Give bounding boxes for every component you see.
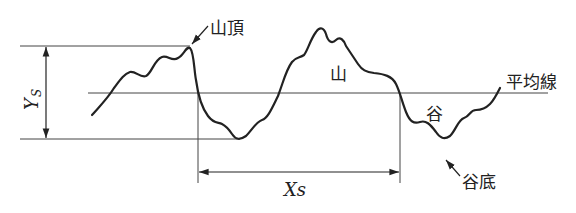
svg-text:Y: Y: [21, 96, 42, 110]
valley-label: 谷: [426, 104, 443, 124]
svg-text:S: S: [30, 89, 44, 97]
profile-diagram: 山頂 山 谷 谷底 平均線 Y S Xs: [0, 0, 576, 213]
mean-line-label: 平均線: [506, 72, 557, 92]
valley-bottom-label: 谷底: [462, 172, 496, 192]
mountain-label: 山: [330, 64, 347, 84]
xs-label: Xs: [282, 179, 306, 200]
peak-top-pointer: [192, 26, 208, 44]
peak-top-label: 山頂: [210, 18, 244, 38]
ys-label: Y S: [21, 89, 44, 110]
valley-bottom-pointer: [446, 160, 460, 176]
